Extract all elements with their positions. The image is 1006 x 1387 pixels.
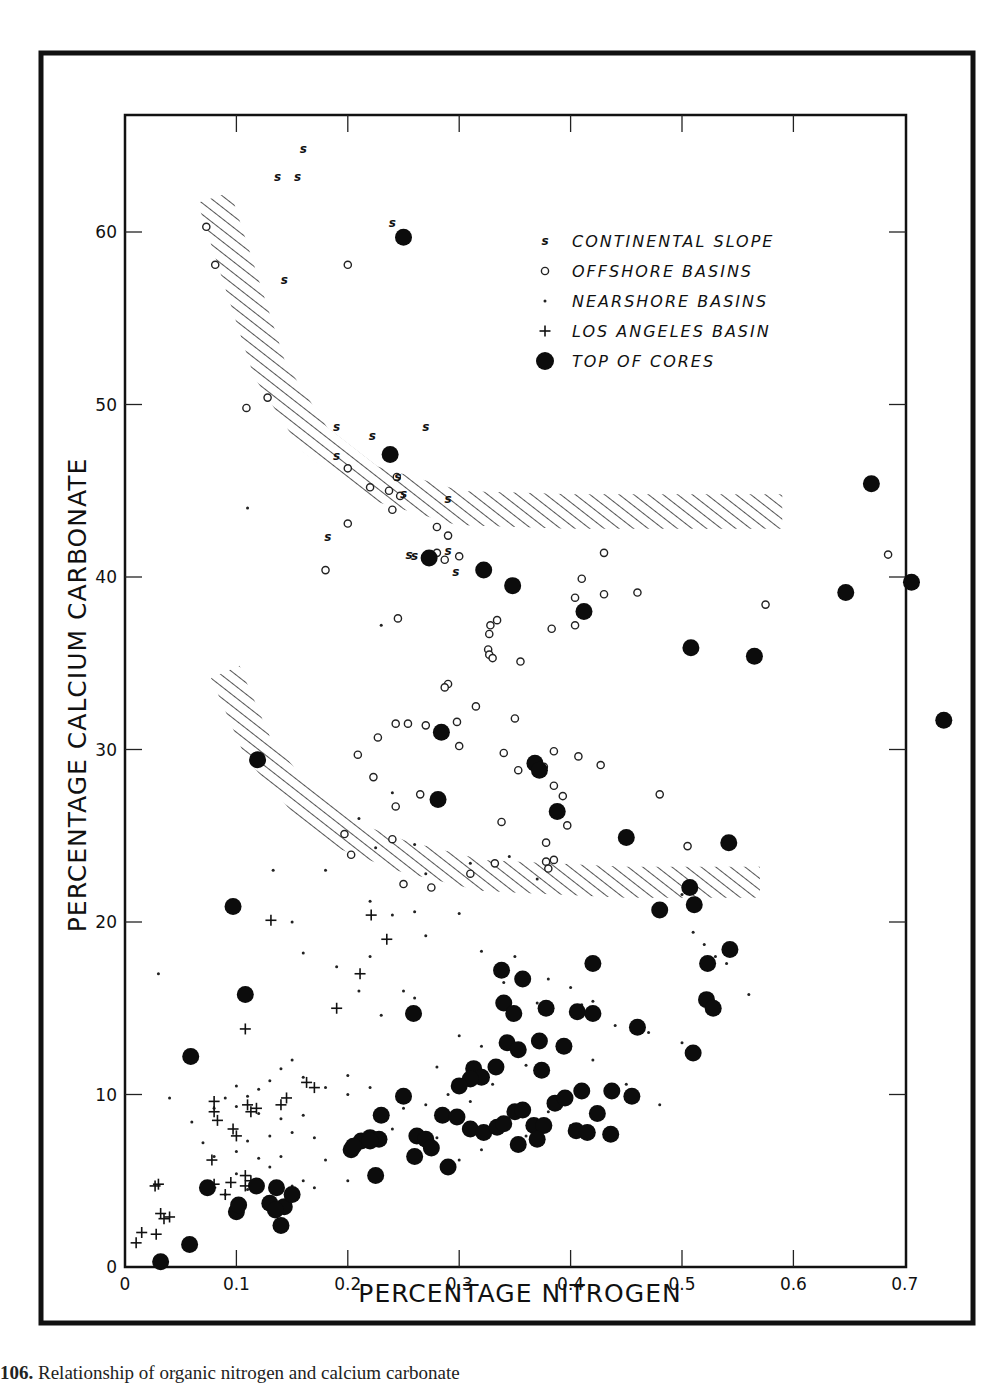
- los-angeles-basin-marker: [131, 1237, 142, 1248]
- offshore-basin-marker: [385, 487, 392, 494]
- top-of-cores-marker: [557, 1089, 574, 1106]
- top-of-cores-marker: [589, 1105, 606, 1122]
- continental-slope-marker: s: [389, 216, 396, 230]
- nearshore-basin-marker: [681, 893, 684, 896]
- legend-item: sCONTINENTAL SLOPE: [541, 232, 774, 251]
- caption-text: Relationship of organic nitrogen and cal…: [38, 1362, 460, 1383]
- nearshore-basin-marker: [413, 843, 416, 846]
- legend: sCONTINENTAL SLOPEOFFSHORE BASINSNEARSHO…: [536, 232, 774, 371]
- offshore-basin-marker: [486, 630, 493, 637]
- nearshore-basin-marker: [703, 943, 706, 946]
- offshore-basin-marker: [392, 803, 399, 810]
- legend-item: NEARSHORE BASINS: [544, 292, 769, 311]
- nearshore-basin-marker: [502, 981, 505, 984]
- top-of-cores-marker: [618, 829, 635, 846]
- nearshore-basin-marker: [357, 990, 360, 993]
- top-of-cores-marker: [493, 962, 510, 979]
- top-of-cores-marker: [629, 1019, 646, 1036]
- continental-slope-marker: s: [422, 420, 429, 434]
- nearshore-basin-marker: [391, 791, 394, 794]
- offshore-basin-marker: [517, 658, 524, 665]
- los-angeles-basin-marker: [209, 1096, 220, 1107]
- los-angeles-basin-marker: [225, 1177, 236, 1188]
- top-of-cores-marker: [504, 577, 521, 594]
- top-of-cores-marker: [382, 446, 399, 463]
- top-of-cores-marker: [510, 1041, 527, 1058]
- continental-slope-marker: s: [281, 273, 288, 287]
- nearshore-basin-marker: [508, 855, 511, 858]
- offshore-basin-marker: [354, 751, 361, 758]
- offshore-basin-marker: [548, 625, 555, 632]
- los-angeles-basin-marker: [540, 326, 551, 337]
- top-of-cores-marker: [248, 1177, 265, 1194]
- nearshore-basin-marker: [213, 1155, 216, 1158]
- top-of-cores-marker: [603, 1083, 620, 1100]
- nearshore-basin-marker: [435, 1065, 438, 1068]
- top-of-cores-marker: [746, 648, 763, 665]
- continental-slope-marker: s: [400, 487, 407, 501]
- top-of-cores-marker: [699, 955, 716, 972]
- y-tick-label: 30: [95, 740, 117, 760]
- offshore-basin-marker: [456, 553, 463, 560]
- nearshore-basin-marker: [268, 1079, 271, 1082]
- offshore-basin-marker: [489, 654, 496, 661]
- nearshore-basin-marker: [435, 1136, 438, 1139]
- top-of-cores-marker: [584, 955, 601, 972]
- nearshore-basin-marker: [369, 955, 372, 958]
- continental-slope-marker: s: [452, 565, 459, 579]
- offshore-basin-marker: [404, 720, 411, 727]
- offshore-basin-marker: [542, 858, 549, 865]
- top-of-cores-marker: [529, 1131, 546, 1148]
- nearshore-basin-marker: [591, 1000, 594, 1003]
- offshore-basin-marker: [417, 791, 424, 798]
- legend-label: TOP OF CORES: [572, 352, 715, 371]
- nearshore-basin-marker: [279, 1117, 282, 1120]
- top-of-cores-marker: [863, 475, 880, 492]
- los-angeles-basin-marker: [206, 1155, 217, 1166]
- top-of-cores-marker: [721, 941, 738, 958]
- top-of-cores-marker: [536, 352, 554, 370]
- offshore-basin-marker: [571, 622, 578, 629]
- offshore-basin-marker: [322, 567, 329, 574]
- offshore-basin-marker: [264, 394, 271, 401]
- top-of-cores-marker: [510, 1136, 527, 1153]
- continental-slope-marker: s: [394, 470, 401, 484]
- legend-item: OFFSHORE BASINS: [541, 262, 753, 281]
- top-of-cores-marker: [430, 791, 447, 808]
- nearshore-basin-marker: [168, 1096, 171, 1099]
- nearshore-basin-marker: [302, 1076, 305, 1079]
- nearshore-basin-marker: [469, 862, 472, 865]
- nearshore-basin-marker: [402, 990, 405, 993]
- top-of-cores-marker: [406, 1148, 423, 1165]
- top-of-cores-marker: [373, 1107, 390, 1124]
- continental-slope-marker: s: [294, 170, 301, 184]
- nearshore-basin-marker: [302, 1179, 305, 1182]
- nearshore-basin-marker: [547, 1110, 550, 1113]
- x-tick-label: 0.2: [334, 1274, 361, 1294]
- scatter-figure: 00.10.20.30.40.50.60.70102030405060 ssss…: [0, 0, 1006, 1387]
- top-of-cores-marker: [514, 970, 531, 987]
- hatched-boundary-band: [211, 666, 760, 898]
- top-of-cores-marker: [685, 1045, 702, 1062]
- offshore-basin-marker: [515, 767, 522, 774]
- nearshore-basin-marker: [324, 1159, 327, 1162]
- offshore-basin-marker: [441, 684, 448, 691]
- top-of-cores-marker: [720, 834, 737, 851]
- legend-label: NEARSHORE BASINS: [572, 292, 768, 311]
- nearshore-basin-marker: [257, 1157, 260, 1160]
- top-of-cores-marker: [423, 1139, 440, 1156]
- y-tick-label: 50: [95, 395, 117, 415]
- offshore-basin-marker: [394, 615, 401, 622]
- top-of-cores-marker: [705, 1000, 722, 1017]
- nearshore-basin-marker: [692, 931, 695, 934]
- top-of-cores-marker: [903, 574, 920, 591]
- axis-tick-labels: 00.10.20.30.40.50.60.70102030405060: [95, 222, 918, 1294]
- nearshore-basin-marker: [424, 1103, 427, 1106]
- nearshore-basin-marker: [224, 1096, 227, 1099]
- los-angeles-basin-marker: [265, 915, 276, 926]
- top-of-cores-marker: [505, 1005, 522, 1022]
- top-of-cores-marker: [531, 1033, 548, 1050]
- nearshore-basin-marker: [257, 1112, 260, 1115]
- continental-slope-marker: s: [444, 492, 451, 506]
- continental-slope-marker: s: [333, 420, 340, 434]
